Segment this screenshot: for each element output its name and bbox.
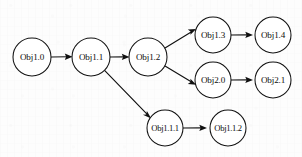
edge-obj1-2-to-obj2-0 [164, 66, 196, 85]
node-obj1-3[interactable]: Obj1.3 [195, 17, 231, 53]
node-label-obj1-1: Obj1.1 [79, 52, 103, 62]
diagram-canvas: Obj1.0 Obj1.1 Obj1.2 Obj1.3 Obj1.4 Obj2. [0, 0, 302, 157]
node-obj1-0[interactable]: Obj1.0 [13, 38, 51, 76]
node-label-obj1-1-2: Obj1.1.2 [214, 123, 241, 133]
node-label-obj1-2: Obj1.2 [136, 52, 161, 62]
edge-obj1-1-1-to-obj1-1-2 [183, 125, 207, 131]
node-label-obj1-0: Obj1.0 [20, 52, 45, 62]
node-obj1-1[interactable]: Obj1.1 [72, 38, 110, 76]
edge-obj2-0-to-obj2-1 [231, 77, 253, 83]
edge-obj1-0-to-obj1-1 [52, 54, 73, 60]
node-obj2-1[interactable]: Obj2.1 [255, 62, 291, 98]
node-label-obj1-4: Obj1.4 [261, 30, 286, 40]
edge-obj1-2-to-obj1-3 [164, 29, 196, 49]
node-obj1-1-1[interactable]: Obj1.1.1 [147, 110, 183, 146]
edge-obj1-1-to-obj1-1-1 [105, 71, 151, 119]
node-obj1-1-2[interactable]: Obj1.1.2 [210, 110, 246, 146]
node-label-obj2-0: Obj2.0 [201, 75, 226, 85]
node-label-obj2-1: Obj2.1 [261, 75, 285, 85]
node-obj1-4[interactable]: Obj1.4 [255, 17, 291, 53]
node-obj1-2[interactable]: Obj1.2 [129, 38, 167, 76]
object-graph: Obj1.0 Obj1.1 Obj1.2 Obj1.3 Obj1.4 Obj2. [0, 0, 302, 157]
edge-obj1-3-to-obj1-4 [231, 32, 253, 38]
edge-obj1-1-to-obj1-2 [110, 54, 129, 60]
node-obj2-0[interactable]: Obj2.0 [195, 62, 231, 98]
node-label-obj1-1-1: Obj1.1.1 [151, 123, 178, 133]
node-label-obj1-3: Obj1.3 [201, 30, 226, 40]
